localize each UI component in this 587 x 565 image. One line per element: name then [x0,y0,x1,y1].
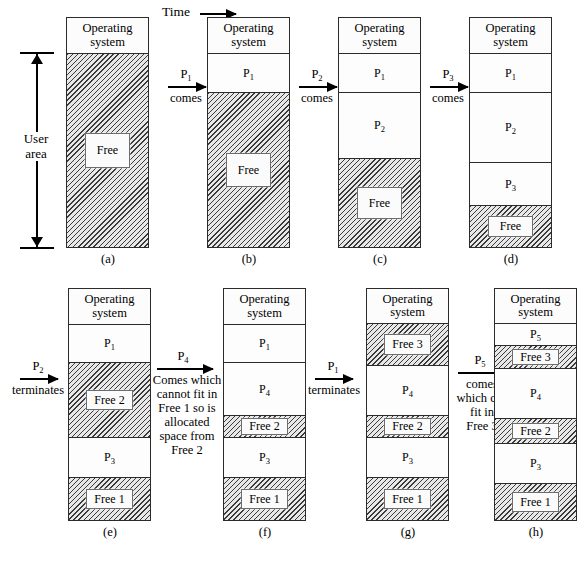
os-label-line1: Operating [224,22,274,35]
arrow-f-to-g-subscript: 1 [334,365,338,375]
segment-p3: P3 [224,438,305,478]
memory-panel-g: Operating system Free 3 P4 Free 2 P3 Fre… [366,288,449,521]
segment-p2: P2 [339,93,420,159]
caption-h: (h) [506,525,566,540]
memory-panel-b: Operating system P1 Free [207,17,290,248]
free-block-label-free3: Free 3 [384,334,430,355]
free-block-label-free2: Free 2 [86,390,132,411]
user-area-bottom-tick [20,247,54,249]
free-block-label: Free [85,133,130,168]
segment-p1: P1 [339,54,420,93]
process-label-p3: P3 [104,451,115,464]
segment-os: Operating system [367,289,448,324]
arrow-a-to-b [168,86,206,88]
segment-free: Free [208,93,289,247]
segment-p1: P1 [69,325,150,363]
arrow-f-to-g-line-0: terminates [298,383,370,397]
segment-p3: P3 [470,163,551,206]
free-block-label: Free [488,216,533,237]
segment-free3: Free 3 [495,346,576,369]
arrow-label-b-to-c-top: P2 [289,67,345,81]
process-label-p3: P3 [259,451,270,464]
segment-os: Operating system [495,289,576,324]
arrow-e-to-f-line-0: Comes which [149,373,225,387]
free-block-label-free3: Free 3 [512,349,558,366]
caption-d: (d) [481,252,541,267]
arrow-c-to-d-subscript: 3 [449,73,453,83]
free-block-label-free1: Free 1 [86,489,132,510]
os-label-line2: system [493,36,528,49]
arrow-label-e-to-f-top: P4 [155,349,211,363]
arrow-b-to-c-subscript: 2 [318,73,322,83]
caption-f: (f) [235,525,295,540]
process-label-p2: P2 [505,121,516,134]
os-label-line1: Operating [240,293,290,306]
caption-e: (e) [80,525,140,540]
caption-g: (g) [378,525,438,540]
os-label-line2: system [247,307,282,320]
arrow-label-f-to-g-lines: terminates [298,383,370,397]
memory-panel-c: Operating system P1 P2 Free [338,17,421,248]
memory-panel-a: Operating system Free [66,17,149,248]
time-axis-label: Time [162,4,190,20]
segment-p1: P1 [470,54,551,93]
process-label-p1: P1 [104,337,115,350]
segment-os: Operating system [339,18,420,54]
process-label-p5: P5 [530,328,541,341]
segment-p3: P3 [367,438,448,478]
arrow-b-to-c [299,86,337,88]
memory-panel-d: Operating system P1 P2 P3 Free [469,17,552,248]
arrow-e-to-f-subscript: 4 [184,355,188,365]
arrow-d-to-e-subscript: 2 [39,365,43,375]
arrow-e-to-f-line-4: space from [149,429,225,443]
caption-c: (c) [350,252,410,267]
arrow-c-to-d [430,86,468,88]
arrow-f-to-g [315,378,353,380]
segment-free2: Free 2 [224,416,305,438]
segment-free2: Free 2 [69,363,150,438]
segment-free3: Free 3 [367,324,448,366]
arrow-e-to-f-line-3: allocated [149,415,225,429]
segment-p4: P4 [367,366,448,416]
memory-panel-h: Operating system P5 Free 3 P4 Free 2 P3 … [494,288,577,521]
arrow-label-c-to-d-top: P3 [420,67,476,81]
arrow-label-e-to-f-lines: Comes which cannot fit in Free 1 so is a… [149,373,225,457]
segment-free: Free [339,159,420,247]
segment-free: Free [67,54,148,247]
os-label-line2: system [90,36,125,49]
segment-free: Free [470,206,551,247]
os-label-line2: system [362,36,397,49]
user-area-label: User area [8,132,64,161]
os-label-line1: Operating [85,293,135,306]
arrow-d-to-e-line-0: terminates [2,383,74,397]
segment-os: Operating system [67,18,148,54]
arrow-label-d-to-e-lines: terminates [2,383,74,397]
free-block-label-free2: Free 2 [512,423,558,440]
os-label-line2: system [231,36,266,49]
arrow-g-to-h-subscript: 5 [481,359,485,369]
caption-b: (b) [219,252,279,267]
free-block-label: Free [357,187,402,220]
arrow-e-to-f-line-1: cannot fit in [149,387,225,401]
memory-panel-e: Operating system P1 Free 2 P3 Free 1 [68,288,151,521]
figure-canvas: Time User area Operating system Free (a)… [0,0,587,565]
process-label-p3: P3 [505,178,516,191]
free-block-label-free1: Free 1 [241,489,287,510]
os-label-line2: system [92,307,127,320]
segment-free1: Free 1 [69,478,150,520]
segment-p2: P2 [470,93,551,163]
segment-p5: P5 [495,324,576,346]
process-label-p4: P4 [259,383,270,396]
process-label-p3: P3 [530,457,541,470]
free-block-label-free1: Free 1 [512,492,558,513]
segment-p1: P1 [224,325,305,363]
process-label-p1: P1 [259,337,270,350]
segment-free1: Free 1 [224,478,305,520]
arrow-a-to-b-subscript: 1 [187,73,191,83]
os-label-line2: system [390,306,425,319]
os-label-line1: Operating [486,22,536,35]
process-label-p1: P1 [243,67,254,80]
arrow-e-to-f-line-2: Free 1 so is [149,401,225,415]
process-label-p3: P3 [402,451,413,464]
arrow-label-f-to-g-top: P1 [305,359,361,373]
